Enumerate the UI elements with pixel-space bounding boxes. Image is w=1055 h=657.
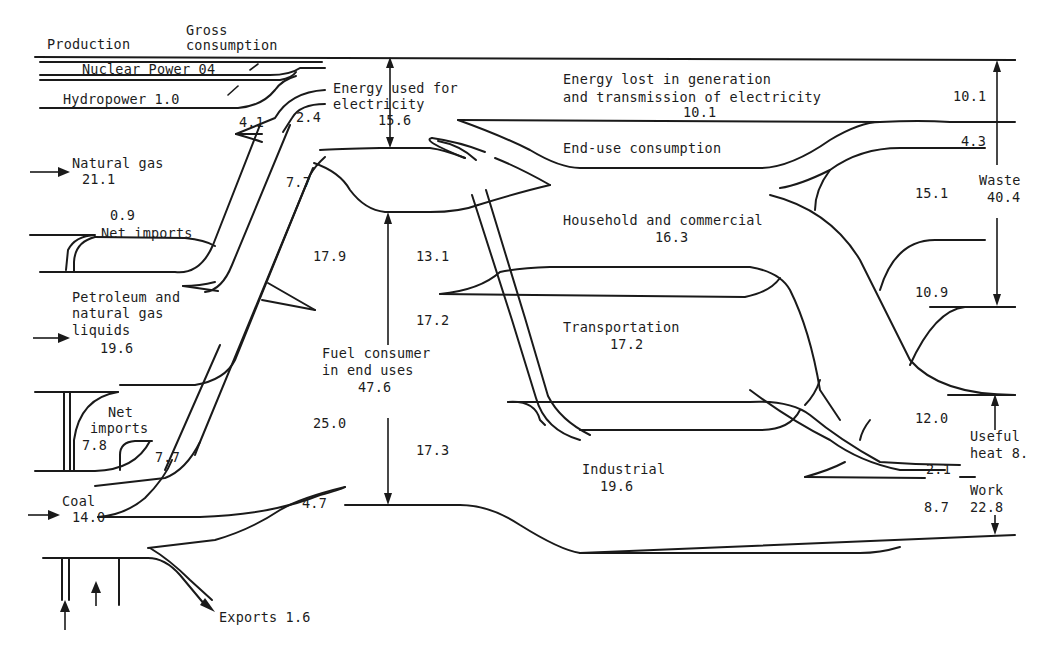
value-right-8-7: 8.7: [924, 499, 949, 515]
label-pet-imports-2: imports: [90, 420, 148, 436]
work-arrow-icon: [991, 515, 999, 535]
coal-band-curve: [98, 460, 172, 517]
label-fuel-2: in end uses: [322, 362, 414, 378]
value-4-1: 4.1: [239, 114, 264, 130]
useful-bounds: [930, 307, 1015, 395]
coal-arrow-icon: [28, 510, 60, 520]
value-ng-imports: 0.9: [110, 207, 135, 223]
value-right-15-1: 15.1: [915, 185, 948, 201]
household-10-9-curve: [880, 240, 985, 290]
label-petroleum-1: Petroleum and: [72, 289, 180, 305]
value-natural-gas: 21.1: [82, 171, 115, 187]
label-fuel-1: Fuel consumer: [322, 345, 430, 361]
industrial-inner: [580, 410, 800, 430]
value-transport: 17.2: [610, 336, 643, 352]
label-end-use: End-use consumption: [563, 140, 721, 156]
header-gross-2: consumption: [186, 37, 278, 53]
value-right-12-0: 12.0: [915, 410, 948, 426]
electricity-node-bottom: [314, 163, 478, 212]
electricity-out-top: [458, 120, 1015, 122]
label-transport: Transportation: [563, 319, 680, 335]
header-production: Production: [47, 36, 130, 52]
label-electricity-2: electricity: [333, 96, 425, 112]
value-fuel: 47.6: [358, 379, 391, 395]
elec-strand-4: [495, 158, 550, 185]
label-work: Work: [970, 482, 1003, 498]
value-right-10-1: 10.1: [953, 88, 986, 104]
industrial-swoosh: [750, 390, 945, 470]
energy-flow-diagram: Production Gross consumption Nuclear Pow…: [0, 0, 1055, 657]
label-lost-2: and transmission of electricity: [563, 89, 821, 105]
top-boundary-line: [35, 57, 1015, 60]
household-swoosh: [770, 195, 1015, 395]
value-household: 16.3: [655, 229, 688, 245]
industrial-floor: [580, 547, 900, 553]
value-right-4-3: 4.3: [961, 133, 986, 149]
label-coal: Coal: [62, 493, 95, 509]
value-lost: 10.1: [683, 104, 716, 120]
label-useful-1: Useful: [970, 428, 1020, 444]
ng-imports-inner: [74, 237, 95, 272]
label-hydro: Hydropower 1.0: [63, 91, 180, 107]
natgas-band-right: [205, 125, 290, 292]
natgas-band-left: [40, 125, 260, 272]
exports-band-bottom: [150, 548, 212, 600]
useful-top-curve: [910, 307, 1015, 365]
pet-imports-vertical: [64, 392, 70, 470]
useful-heat-arrow-icon: [991, 394, 999, 430]
natural-gas-arrow-icon: [30, 167, 70, 177]
label-industrial: Industrial: [582, 461, 665, 477]
label-nuclear: Nuclear Power 04: [82, 61, 215, 77]
work-spur: [805, 462, 845, 477]
end-use-4-3-line: [780, 148, 985, 188]
industrial-link-a: [805, 380, 820, 405]
petroleum-arrow-icon: [33, 333, 70, 343]
value-right-2-1: 2.1: [926, 461, 951, 477]
value-coal: 14.0: [72, 509, 105, 525]
label-household: Household and commercial: [563, 212, 763, 228]
work-line: [805, 477, 975, 478]
value-right-10-9: 10.9: [915, 284, 948, 300]
exports-import-arrow-icon: [91, 581, 101, 606]
transport-bottom: [440, 278, 780, 297]
value-2-4: 2.4: [296, 109, 321, 125]
value-waste: 40.4: [987, 189, 1020, 205]
value-7-7-lower: 7.7: [155, 449, 180, 465]
label-electricity-1: Energy used for: [333, 80, 458, 96]
petrol-spur-top: [183, 282, 215, 286]
label-exports: Exports 1.6: [219, 609, 311, 625]
value-petroleum: 19.6: [100, 340, 133, 356]
label-petroleum-3: liquids: [72, 322, 130, 338]
value-work: 22.8: [970, 499, 1003, 515]
label-waste: Waste: [979, 172, 1021, 188]
value-17-2: 17.2: [416, 312, 449, 328]
value-pet-imports: 7.8: [82, 437, 107, 453]
value-13-1: 13.1: [416, 248, 449, 264]
4-1-spur-bottom: [236, 134, 262, 142]
nuclear-arrow: [250, 64, 258, 70]
value-7-7-upper: 7.7: [286, 174, 311, 190]
value-17-3: 17.3: [416, 442, 449, 458]
label-useful-2: heat 8.: [970, 445, 1028, 461]
label-ng-imports: Net imports: [101, 225, 193, 241]
petrol-spur-bottom: [183, 286, 218, 291]
header-gross-1: Gross: [186, 22, 228, 38]
industrial-top: [508, 402, 960, 465]
value-industrial: 19.6: [600, 478, 633, 494]
label-lost-1: Energy lost in generation: [563, 71, 771, 87]
label-natural-gas: Natural gas: [72, 155, 164, 171]
value-electricity: 15.6: [378, 112, 411, 128]
hydro-arrow: [228, 86, 238, 95]
label-petroleum-2: natural gas: [72, 305, 164, 321]
label-pet-imports-1: Net: [108, 404, 133, 420]
value-4-7: 4.7: [302, 495, 327, 511]
industrial-bottom-band: [345, 505, 1015, 553]
value-17-9: 17.9: [313, 248, 346, 264]
exports-band-top: [43, 558, 205, 605]
coal-up-arrow-icon: [60, 600, 70, 630]
coal-production-verticals: [62, 558, 119, 605]
value-25-0: 25.0: [313, 415, 346, 431]
industrial-link-b: [860, 420, 870, 440]
